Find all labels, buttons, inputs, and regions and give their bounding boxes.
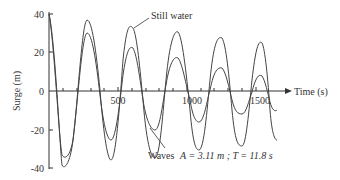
y-tick-40: 40 [34,9,44,20]
y-axis-label: Surge (m) [11,71,23,111]
surge-chart: 40 20 0 -20 -40 500 1000 1500 Time (s) S… [0,0,340,180]
x-axis-label: Time (s) [294,86,328,98]
y-tick-20: 20 [34,47,44,58]
waves-label: Waves [148,150,175,161]
y-tick-neg40: -40 [31,163,44,174]
y-tick-0: 0 [39,86,44,97]
waves-params-label: A = 3.11 m ; T = 11.8 s [179,150,273,161]
still-water-pointer [134,18,149,28]
x-axis-arrow-icon [285,88,292,94]
still-water-series [49,14,277,167]
x-tick-1000: 1000 [182,95,202,106]
x-tick-500: 500 [111,95,126,106]
waves-pointer [150,128,165,148]
y-tick-neg20: -20 [31,125,44,136]
still-water-label: Still water [151,10,193,21]
x-tick-1500: 1500 [250,95,270,106]
